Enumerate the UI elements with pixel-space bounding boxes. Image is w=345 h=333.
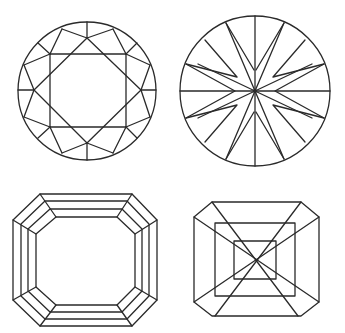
gem-cut-diagram [0,0,345,333]
round-brilliant-cut [18,22,156,160]
asscher-cut [194,202,319,316]
emerald-cut [13,194,157,326]
star-pattern-round-cut [180,16,330,166]
